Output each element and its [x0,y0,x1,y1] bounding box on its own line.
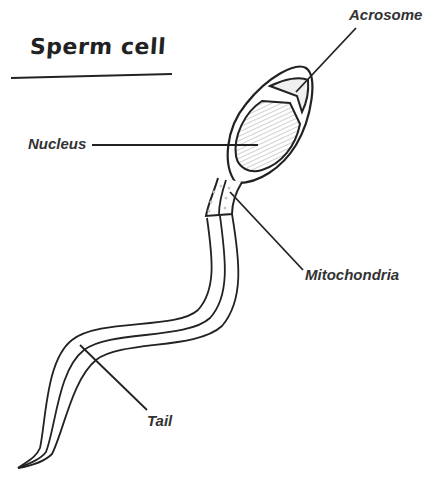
acrosome-leader [296,28,356,92]
label-nucleus: Nucleus [28,135,86,152]
label-acrosome: Acrosome [349,6,422,23]
label-mitochondria: Mitochondria [305,266,399,283]
tail-lines [18,214,238,468]
sperm-cell-illustration [0,0,443,478]
mitochondria-leader [230,192,303,270]
title-underline [11,74,172,78]
tail-leader [80,345,147,410]
label-tail: Tail [147,412,172,429]
